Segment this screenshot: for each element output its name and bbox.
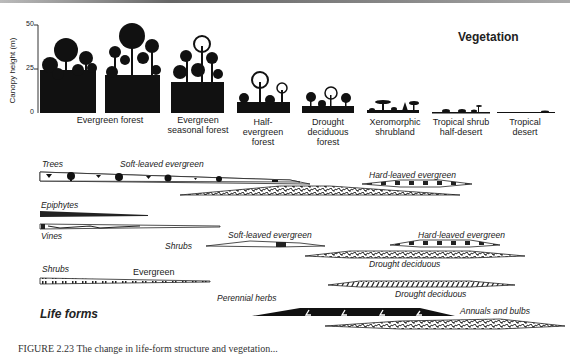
shrubs-label: Shrubs <box>42 264 69 274</box>
drought-deciduous-forest-silhouette <box>302 87 354 113</box>
vines-bar <box>40 224 220 229</box>
veg-label-tropical-shrub: Tropical shrub half-desert <box>430 117 492 137</box>
shrubs-drought-deciduous-hatch-bar <box>328 281 515 287</box>
half-evergreen-forest-silhouette <box>237 72 290 113</box>
evergreen-forest-silhouette-2 <box>105 23 161 113</box>
figure-caption: FIGURE 2.23 The change in life-form stru… <box>18 343 278 354</box>
veg-label-evergreen-forest: Evergreen forest <box>70 115 150 125</box>
vines-label: Vines <box>41 231 62 241</box>
veg-label-tropical-desert: Tropical desert <box>502 117 548 137</box>
shrubs-soft-leaved-label: Soft-leaved evergreen <box>228 230 312 240</box>
evergreen-forest-silhouette-1 <box>40 38 97 113</box>
shrubs-drought-deciduous-label: Drought deciduous <box>369 259 440 269</box>
trees-soft-leaved-label: Soft-leaved evergreen <box>120 159 204 169</box>
veg-label-drought-deciduous: Drought deciduous forest <box>302 117 354 147</box>
trees-hard-leaved-label: Hard-leaved evergreen <box>369 170 456 180</box>
shrubs-evergreen-bar <box>40 278 210 284</box>
tropical-shrub-half-desert-silhouette <box>432 105 490 114</box>
evergreen-seasonal-forest-silhouette <box>171 36 224 113</box>
shrubs-drought-deciduous-hatch-label: Drought deciduous <box>395 289 466 299</box>
xeromorphic-shrubland-silhouette <box>367 100 419 113</box>
shrubs-soft-leaved-bar <box>206 241 325 247</box>
trees-label: Trees <box>42 159 63 169</box>
vegetation-title: Vegetation <box>458 30 519 44</box>
trees-hard-leaved-bar <box>362 180 472 187</box>
perennial-herbs-label: Perennial herbs <box>217 293 277 303</box>
y-tick-0: 0 <box>30 108 34 115</box>
tropical-desert-silhouette <box>497 111 555 114</box>
veg-label-evergreen-seasonal: Evergreen seasonal forest <box>165 115 231 135</box>
y-axis-label: Canopy height (m) <box>8 31 17 111</box>
shrubs-hard-leaved-label: Hard-leaved evergreen <box>418 230 505 240</box>
y-tick-25: 25 <box>26 64 34 71</box>
shrubs-drought-deciduous-bar <box>305 251 525 258</box>
life-forms-title: Life forms <box>40 307 98 321</box>
perennial-herbs-bar <box>252 308 455 316</box>
annuals-bulbs-bar <box>325 319 565 329</box>
y-axis <box>34 25 38 113</box>
trees-soft-leaved-bar <box>40 172 310 184</box>
epiphytes-label: Epiphytes <box>41 200 78 210</box>
annuals-bulbs-label: Annuals and bulbs <box>460 306 530 316</box>
veg-label-evergreen-seasonal-text: Evergreen seasonal forest <box>167 115 228 135</box>
epiphytes-bar <box>40 211 148 217</box>
shrubs-evergreen-label: Evergreen <box>133 267 175 277</box>
y-tick-50: 50 <box>26 20 34 27</box>
shrubs-hard-leaved-bar <box>390 240 500 247</box>
veg-label-half-evergreen: Half-evergreen forest <box>240 117 286 147</box>
veg-label-xeromorphic: Xeromorphic shrubland <box>366 117 424 137</box>
shrubs-group-label: Shrubs <box>165 241 192 251</box>
